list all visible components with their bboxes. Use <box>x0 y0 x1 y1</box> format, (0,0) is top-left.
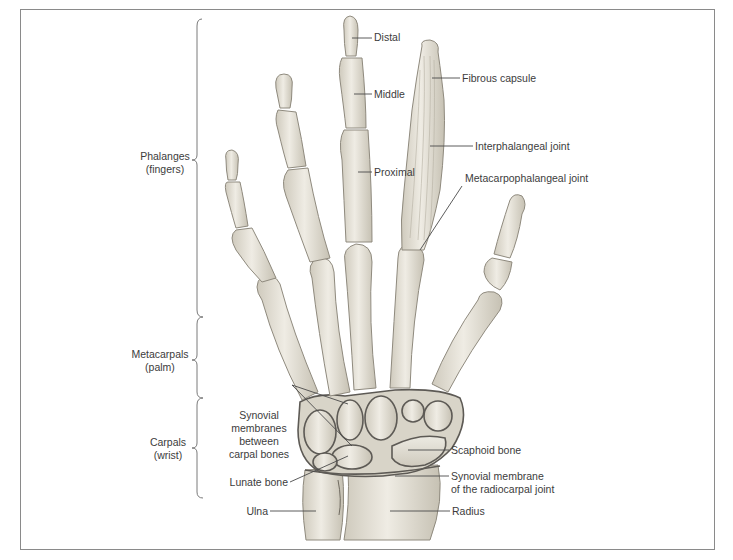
carpals-line1: Carpals <box>146 436 190 449</box>
metacarpals-line2: (palm) <box>128 361 192 374</box>
thumb <box>484 195 525 290</box>
radius-label: Radius <box>452 505 485 518</box>
synovial-membranes-line1: Synovial <box>226 409 292 422</box>
carpals-line2: (wrist) <box>146 449 190 462</box>
interphalangeal-joint-label: Interphalangeal joint <box>475 140 570 153</box>
carpals-label: Carpals (wrist) <box>146 436 190 462</box>
radiocarpal-line1: Synovial membrane <box>451 470 554 483</box>
metacarpals-line1: Metacarpals <box>128 348 192 361</box>
synovial-membranes-line4: carpal bones <box>226 448 292 461</box>
ulna-label: Ulna <box>240 505 268 518</box>
fibrous-capsule-label: Fibrous capsule <box>462 72 536 85</box>
little-finger <box>225 150 276 282</box>
synovial-membranes-line2: membranes <box>226 422 292 435</box>
scaphoid-bone-label: Scaphoid bone <box>451 444 521 457</box>
phalanges-line2: (fingers) <box>140 163 190 176</box>
hand-skeleton-illustration <box>0 0 733 560</box>
synovial-membranes-line3: between <box>226 435 292 448</box>
synovial-membranes-label: Synovial membranes between carpal bones <box>226 409 292 461</box>
radiocarpal-line2: of the radiocarpal joint <box>451 483 554 496</box>
phalanges-line1: Phalanges <box>140 150 190 163</box>
synovial-membrane-radiocarpal-label: Synovial membrane of the radiocarpal joi… <box>451 470 554 496</box>
ring-finger <box>276 74 330 262</box>
carpal-bones <box>298 390 464 477</box>
metacarpal-bones <box>257 244 502 400</box>
metacarpophalangeal-joint-label: Metacarpophalangeal joint <box>465 172 588 185</box>
bracket-lines <box>192 19 203 498</box>
phalanges-label: Phalanges (fingers) <box>140 150 190 176</box>
lunate-bone-label: Lunate bone <box>220 476 288 489</box>
proximal-label: Proximal <box>374 166 415 179</box>
metacarpals-label: Metacarpals (palm) <box>128 348 192 374</box>
middle-label: Middle <box>374 88 405 101</box>
distal-label: Distal <box>374 31 400 44</box>
middle-finger <box>339 16 372 242</box>
